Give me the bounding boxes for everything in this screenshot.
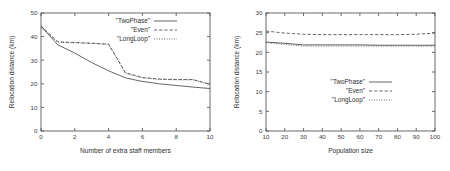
chart-left-xaxis-title: Number of extra staff members xyxy=(80,147,171,154)
chart-left-legend-label-0: "TwoPhase" xyxy=(116,17,150,24)
chart-right-xtick-label: 70 xyxy=(375,133,382,140)
chart-right-ytick-label: 25 xyxy=(256,29,263,36)
chart-right-xtick-label: 10 xyxy=(263,133,270,140)
chart-right-yaxis-title: Relocation distance (km) xyxy=(233,36,241,109)
chart-right-ytick-label: 5 xyxy=(259,108,263,115)
chart-right-xtick-label: 20 xyxy=(281,133,288,140)
chart-left-legend-label-1: "Even" xyxy=(131,26,150,33)
chart-left-ytick-label: 10 xyxy=(31,104,38,111)
chart-right-xtick-label: 30 xyxy=(300,133,307,140)
chart-right-xtick-label: 90 xyxy=(413,133,420,140)
chart-right-ytick-label: 15 xyxy=(256,68,263,75)
chart-left-labels: Number of extra staff membersRelocation … xyxy=(8,36,172,154)
chart-right-xtick-label: 60 xyxy=(356,133,363,140)
chart-right-ytick-label: 30 xyxy=(256,9,263,16)
chart-left-ytick-label: 40 xyxy=(31,33,38,40)
chart-right-xtick-label: 100 xyxy=(430,133,441,140)
chart-right-plot-frame xyxy=(266,13,435,131)
chart-left-ytick-label: 20 xyxy=(31,80,38,87)
chart-left-legend: "TwoPhase""Even""LongLoop" xyxy=(116,17,177,43)
chart-left-legend-label-2: "LongLoop" xyxy=(117,35,150,43)
chart-left-xtick-label: 2 xyxy=(73,133,77,140)
chart-right-svg: 102030405060708090100051015202530 "TwoPh… xyxy=(225,0,450,171)
chart-right-legend-label-2: "LongLoop" xyxy=(332,96,365,104)
chart-right-xtick-label: 40 xyxy=(319,133,326,140)
chart-left-xtick-label: 4 xyxy=(107,133,111,140)
chart-panel-right: 102030405060708090100051015202530 "TwoPh… xyxy=(225,0,450,171)
chart-left-xtick-label: 6 xyxy=(141,133,145,140)
chart-right-ytick-label: 20 xyxy=(256,49,263,56)
chart-right-ytick-label: 10 xyxy=(256,88,263,95)
chart-right-series-1 xyxy=(266,31,435,35)
chart-right-series xyxy=(266,31,435,46)
chart-panel-left: 024681001020304050 "TwoPhase""Even""Long… xyxy=(0,0,225,171)
figure-root: 024681001020304050 "TwoPhase""Even""Long… xyxy=(0,0,450,171)
chart-right-ytick-label: 0 xyxy=(259,127,263,134)
chart-left-xtick-label: 8 xyxy=(174,133,178,140)
chart-left-xtick-label: 10 xyxy=(207,133,214,140)
chart-right-legend-label-0: "TwoPhase" xyxy=(331,78,365,85)
chart-left-xtick-label: 0 xyxy=(39,133,43,140)
chart-right-xaxis-title: Population size xyxy=(328,147,373,155)
chart-right-xtick-label: 80 xyxy=(394,133,401,140)
chart-right-xtick-label: 50 xyxy=(338,133,345,140)
chart-left-ytick-label: 0 xyxy=(34,127,38,134)
chart-left-yaxis-title: Relocation distance (km) xyxy=(8,36,16,109)
chart-left-svg: 024681001020304050 "TwoPhase""Even""Long… xyxy=(0,0,225,171)
chart-left-ytick-label: 50 xyxy=(31,9,38,16)
chart-left-axes: 024681001020304050 xyxy=(31,9,214,140)
chart-right-legend: "TwoPhase""Even""LongLoop" xyxy=(331,78,392,104)
chart-left-ytick-label: 30 xyxy=(31,57,38,64)
chart-right-legend-label-1: "Even" xyxy=(346,87,365,94)
chart-right-axes: 102030405060708090100051015202530 xyxy=(256,9,441,140)
